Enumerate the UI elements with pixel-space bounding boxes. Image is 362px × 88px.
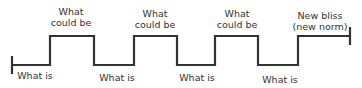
label-line: could be	[135, 19, 176, 30]
label-high-4: New bliss (new norm)	[293, 10, 348, 32]
label-low-3: What is	[179, 72, 215, 83]
label-high-2: What could be	[135, 8, 176, 30]
label-line: What	[135, 8, 176, 19]
waveform-line	[12, 36, 350, 65]
label-high-1: What could be	[51, 6, 92, 28]
label-line: (new norm)	[293, 21, 348, 32]
label-low-2: What is	[99, 72, 135, 83]
label-line: What	[217, 8, 258, 19]
label-low-4: What is	[262, 74, 298, 85]
label-line: could be	[51, 17, 92, 28]
label-low-1: What is	[17, 70, 53, 81]
label-line: could be	[217, 19, 258, 30]
label-line: New bliss	[293, 10, 348, 21]
label-high-3: What could be	[217, 8, 258, 30]
label-line: What	[51, 6, 92, 17]
